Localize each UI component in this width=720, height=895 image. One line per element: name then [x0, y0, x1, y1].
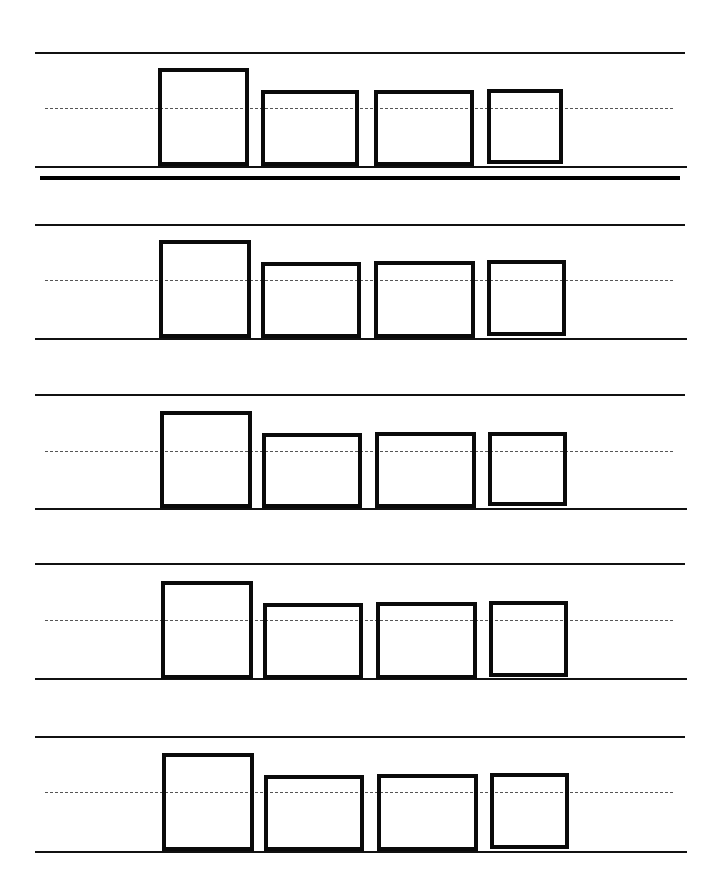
row-4-writing-box-3 — [376, 602, 477, 679]
row-separator-thick-line — [40, 176, 680, 180]
row-5-writing-box-3 — [377, 774, 478, 851]
row-5-baseline — [35, 851, 687, 853]
row-3-top-line — [35, 394, 685, 396]
row-5-writing-box-2 — [264, 775, 364, 851]
row-3-writing-box-4 — [488, 432, 567, 506]
row-4-writing-box-4 — [489, 601, 568, 677]
row-2-top-line — [35, 224, 685, 226]
row-4-top-line — [35, 563, 685, 565]
row-1-dashed-midline — [45, 108, 673, 109]
row-3-writing-box-1 — [160, 411, 252, 508]
row-5-writing-box-4 — [490, 773, 569, 849]
row-1-writing-box-2 — [261, 90, 359, 166]
row-4-writing-box-2 — [263, 603, 363, 679]
row-2-writing-box-3 — [374, 261, 475, 338]
row-1-writing-box-3 — [374, 90, 474, 166]
row-2-writing-box-1 — [159, 240, 251, 338]
row-3-writing-box-2 — [262, 433, 362, 508]
row-2-writing-box-2 — [261, 262, 361, 338]
row-2-baseline — [35, 338, 687, 340]
row-5-writing-box-1 — [162, 753, 254, 851]
row-1-writing-box-4 — [487, 89, 563, 164]
row-4-writing-box-1 — [161, 581, 253, 679]
row-5-top-line — [35, 736, 685, 738]
row-2-writing-box-4 — [487, 260, 566, 336]
row-3-baseline — [35, 508, 687, 510]
row-1-baseline — [35, 166, 687, 168]
row-1-writing-box-1 — [158, 68, 249, 166]
row-3-writing-box-3 — [375, 432, 476, 508]
row-1-top-line — [35, 52, 685, 54]
